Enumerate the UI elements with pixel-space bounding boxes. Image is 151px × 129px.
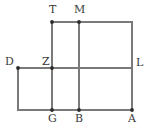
vertex-label-G: G <box>48 113 57 124</box>
vertex-label-T: T <box>49 4 56 15</box>
vertex-label-A: A <box>128 113 136 124</box>
segments-group <box>18 22 132 110</box>
vertex-dot-D <box>16 66 20 70</box>
vertex-dot-T <box>50 20 54 24</box>
vertices-group <box>16 20 134 112</box>
vertex-label-B: B <box>75 113 83 124</box>
vertex-label-Z: Z <box>42 56 50 67</box>
vertex-label-D: D <box>5 56 14 67</box>
vertex-dot-M <box>77 20 81 24</box>
vertex-label-L: L <box>136 57 143 68</box>
geometry-figure: TMDZLGBA <box>0 0 151 129</box>
vertex-dot-Z <box>50 66 54 70</box>
vertex-label-M: M <box>74 4 85 15</box>
geometry-canvas <box>0 0 151 129</box>
